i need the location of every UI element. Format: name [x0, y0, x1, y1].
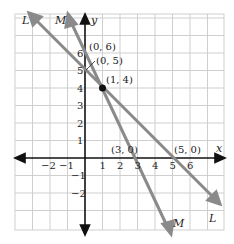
point-label-0-5: (0, 5): [96, 55, 123, 66]
point-label-1-4: (1, 4): [106, 74, 133, 85]
y-tick: 4: [77, 83, 83, 94]
x-tick-labels: −2 −1 1 2 3 4 5 6: [41, 160, 193, 171]
point-label-5-0: (5, 0): [174, 144, 201, 155]
x-tick: 4: [152, 160, 158, 171]
intersection-point: [99, 85, 106, 92]
y-tick: 6: [77, 48, 83, 59]
x-axis-left-arrow-icon: [15, 154, 25, 163]
x-tick: 5: [170, 160, 176, 171]
line-L-label-bottom: L: [208, 212, 216, 225]
y-tick: 2: [77, 118, 83, 129]
x-tick: 6: [187, 160, 193, 171]
x-tick: 2: [117, 160, 123, 171]
line-M-label-top: M: [54, 14, 67, 27]
point-label-3-0: (3, 0): [111, 144, 138, 155]
x-tick: 3: [135, 160, 141, 171]
y-axis-label: y: [90, 14, 98, 27]
x-tick: 1: [100, 160, 106, 171]
y-tick: 3: [77, 100, 83, 111]
y-tick: 1: [77, 135, 83, 146]
line-M-top-arrow-icon: [66, 14, 76, 27]
coordinate-plane: x y L M M L (0, 6) (0, 5) (1, 4) (3, 0) …: [0, 0, 234, 244]
y-tick: −1: [71, 170, 86, 181]
line-L-label-top: L: [21, 14, 29, 27]
point-label-0-6: (0, 6): [89, 41, 116, 52]
x-axis-label: x: [216, 142, 223, 155]
y-tick: 5: [77, 65, 83, 76]
x-tick: −2: [41, 160, 56, 171]
y-axis-up-arrow-icon: [81, 14, 90, 24]
y-tick: −2: [71, 188, 86, 199]
line-M-bottom-arrow-icon: [163, 221, 173, 234]
line-M-label-bottom: M: [172, 217, 185, 230]
